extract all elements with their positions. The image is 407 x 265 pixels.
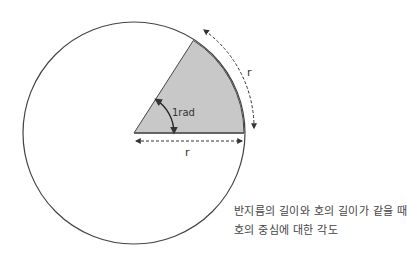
arc-length-label: r [247, 66, 252, 79]
caption-line-2: 호의 중심에 대한 각도 [234, 221, 338, 237]
sector-1rad [134, 40, 244, 133]
radius-label: r [185, 146, 190, 159]
caption-line-1: 반지름의 길이와 호의 길이가 같을 때 [234, 202, 407, 218]
angle-label: 1rad [172, 107, 195, 118]
